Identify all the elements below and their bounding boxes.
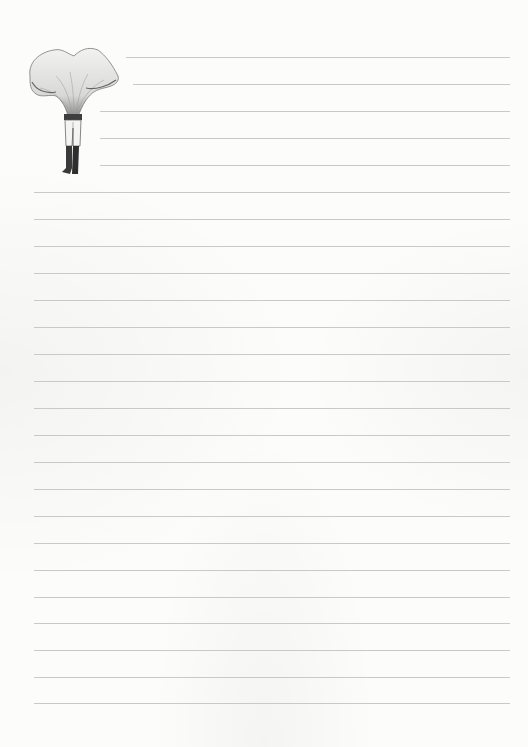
writing-line <box>34 516 510 517</box>
writing-line <box>100 165 510 166</box>
writing-line <box>34 273 510 274</box>
writing-line <box>34 408 510 409</box>
writing-line <box>126 57 510 58</box>
writing-line <box>34 381 510 382</box>
writing-line <box>34 462 510 463</box>
writing-line <box>34 435 510 436</box>
writing-line <box>34 300 510 301</box>
writing-line <box>34 192 510 193</box>
writing-line <box>34 354 510 355</box>
writing-line <box>34 543 510 544</box>
writing-line <box>34 703 510 704</box>
writing-line <box>34 327 510 328</box>
writing-line <box>100 111 510 112</box>
writing-line <box>34 650 510 651</box>
writing-line <box>34 597 510 598</box>
writing-line <box>34 246 510 247</box>
writing-line <box>34 570 510 571</box>
writing-line <box>34 489 510 490</box>
writing-line <box>34 219 510 220</box>
notepaper-page <box>0 0 528 747</box>
writing-line <box>133 84 510 85</box>
writing-line <box>100 138 510 139</box>
writing-line <box>34 677 510 678</box>
writing-line <box>34 623 510 624</box>
